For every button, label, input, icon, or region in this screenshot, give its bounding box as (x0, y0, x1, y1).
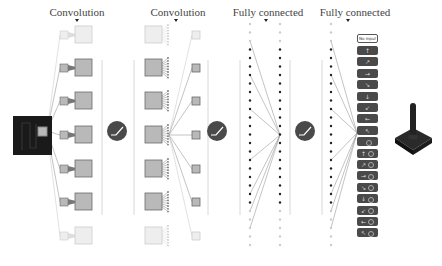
direction-arrow-icon: ↙ (361, 207, 366, 214)
conv2-fan-node (167, 161, 169, 163)
conv2-fan-node (167, 124, 169, 126)
conv2-fan-node (167, 197, 169, 199)
conv2-fan-node (167, 63, 169, 65)
conv2-connection (169, 135, 192, 236)
direction-arrow-icon: ↖ (361, 229, 366, 236)
conv2-fan-node (167, 104, 169, 106)
fc2-connection (331, 133, 357, 194)
action-button: ↙ (357, 206, 378, 215)
direction-arrow-icon: ↘ (361, 184, 366, 191)
conv1-kernel (60, 97, 68, 105)
action-button: ↘ (357, 80, 378, 89)
action-no-input: No input (357, 34, 378, 43)
conv1-feature-map (75, 160, 92, 177)
neuron (279, 23, 281, 25)
conv2-fan-node (167, 234, 169, 236)
conv2-input-map (145, 160, 162, 177)
neuron (279, 159, 281, 161)
fire-button-icon (368, 162, 374, 168)
neuron (330, 167, 332, 169)
neuron (330, 150, 332, 152)
conv2-output (192, 198, 200, 206)
neuron (330, 218, 332, 220)
neuron (249, 57, 251, 59)
neuron (279, 82, 281, 84)
neuron (279, 31, 281, 33)
neuron (330, 159, 332, 161)
fire-button-icon (368, 174, 374, 180)
direction-arrow-icon: ← (365, 115, 370, 122)
conv2-fan-node (167, 172, 169, 174)
conv2-fan-node (167, 41, 169, 43)
fc2-connection (331, 75, 357, 133)
neuron (279, 133, 281, 135)
conv2-fan-node (167, 167, 169, 169)
neuron (249, 40, 251, 42)
conv2-fan-node (167, 231, 169, 233)
neuron (279, 99, 281, 101)
action-button: ↘ (357, 183, 378, 192)
conv2-fan-node (167, 194, 169, 196)
action-button: ↖ (357, 228, 378, 237)
action-button: ↗ (357, 57, 378, 66)
conv2-fan-node (167, 33, 169, 35)
neuron (279, 167, 281, 169)
conv2-fan-node (167, 38, 169, 40)
neuron (279, 74, 281, 76)
fc2-connection (331, 41, 357, 133)
neuron (249, 227, 251, 229)
relu-icon (207, 121, 227, 141)
fc1-connection (250, 135, 280, 228)
conv2-fan-node (167, 239, 169, 241)
neuron (279, 227, 281, 229)
neuron (249, 108, 251, 110)
neuron (249, 210, 251, 212)
conv2-fan-node (167, 138, 169, 140)
fire-button-icon (368, 197, 374, 203)
neuron (330, 193, 332, 195)
conv2-fan-node (167, 35, 169, 37)
action-button: ↓ (357, 194, 378, 203)
neuron (279, 184, 281, 186)
neuron (330, 91, 332, 93)
direction-arrow-icon: ↑ (365, 47, 370, 54)
direction-arrow-icon: ← (361, 218, 366, 225)
direction-arrow-icon: ↓ (365, 93, 370, 100)
neuron (330, 57, 332, 59)
conv2-fan-node (167, 205, 169, 207)
conv2-fan-node (167, 135, 169, 137)
conv2-fan-node (167, 164, 169, 166)
conv1-feature-map (75, 193, 92, 210)
fc2-connection (331, 109, 357, 133)
conv2-fan-node (167, 242, 169, 244)
fire-button-icon (366, 140, 372, 146)
conv2-input-map (145, 26, 162, 43)
conv1-kernel (60, 198, 68, 206)
neuron (249, 31, 251, 33)
conv2-connection (169, 35, 192, 135)
direction-arrow-icon: ↑ (361, 150, 366, 157)
neuron (279, 48, 281, 50)
conv2-fan-node (167, 60, 169, 62)
neuron (330, 210, 332, 212)
conv2-connection (169, 68, 192, 135)
neuron (330, 48, 332, 50)
conv2-fan-node (167, 27, 169, 29)
fire-button-icon (368, 219, 374, 225)
action-button: ← (357, 114, 378, 123)
conv2-input-map (145, 126, 162, 143)
neuron (279, 108, 281, 110)
neuron (279, 193, 281, 195)
neuron (330, 116, 332, 118)
neuron (249, 116, 251, 118)
action-button: ↙ (357, 103, 378, 112)
conv2-fan-node (167, 191, 169, 193)
neuron (249, 82, 251, 84)
neuron (249, 23, 251, 25)
neuron (330, 176, 332, 178)
conv2-output (192, 131, 200, 139)
neuron (330, 142, 332, 144)
neuron (330, 125, 332, 127)
conv2-output (192, 97, 200, 105)
direction-arrow-icon: → (361, 172, 366, 179)
